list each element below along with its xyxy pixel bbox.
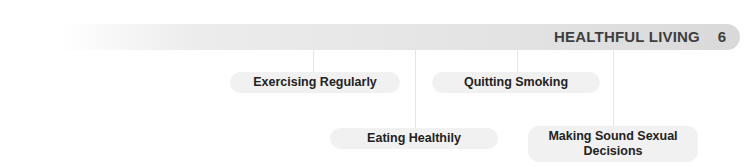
connector-line [517,50,518,72]
connector-line [313,50,314,72]
node-label: Making Sound Sexual Decisions [548,129,678,159]
chapter-number: 6 [718,28,726,45]
node-quitting-smoking: Quitting Smoking [432,72,600,93]
chapter-header-bar: HEALTHFUL LIVING 6 [60,24,740,50]
node-exercising-regularly: Exercising Regularly [230,72,400,93]
node-label: Exercising Regularly [253,75,377,90]
node-eating-healthily: Eating Healthily [330,128,498,149]
node-making-sound-sexual-decisions: Making Sound Sexual Decisions [528,126,698,162]
chapter-title: HEALTHFUL LIVING [554,28,700,45]
node-label: Eating Healthily [367,131,461,146]
node-label: Quitting Smoking [464,75,568,90]
